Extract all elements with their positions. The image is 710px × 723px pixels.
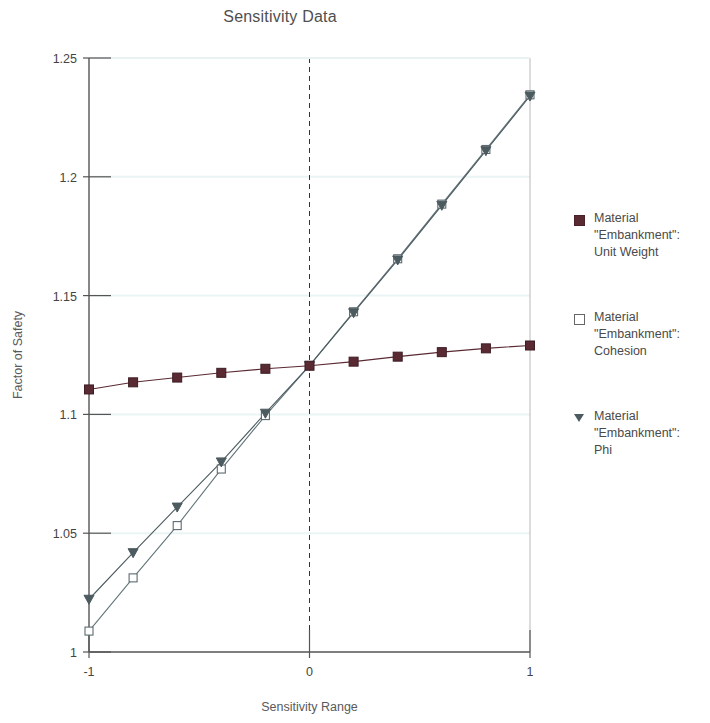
y-axis-title: Factor of Safety bbox=[11, 310, 25, 399]
legend-label-line-3: Cohesion bbox=[594, 343, 710, 360]
legend-entry-unit-weight[interactable]: Material "Embankment": Unit Weight bbox=[572, 210, 710, 261]
data-point-marker bbox=[173, 373, 182, 382]
legend-label-line-2: "Embankment": bbox=[594, 227, 710, 244]
filled-square-icon bbox=[574, 215, 585, 226]
data-point-marker bbox=[173, 522, 181, 530]
legend-label-line-2: "Embankment": bbox=[594, 425, 710, 442]
y-tick-label: 1.1 bbox=[60, 408, 77, 422]
data-point-marker bbox=[84, 595, 94, 604]
data-point-marker bbox=[129, 574, 137, 582]
data-point-marker bbox=[481, 344, 490, 353]
x-tick-label: -1 bbox=[83, 665, 94, 679]
data-point-marker bbox=[305, 361, 314, 370]
legend-label-line-3: Phi bbox=[594, 442, 710, 459]
legend-entry-cohesion[interactable]: Material "Embankment": Cohesion bbox=[572, 309, 710, 360]
x-axis-title: Sensitivity Range bbox=[261, 700, 358, 714]
x-tick-label: 0 bbox=[306, 665, 313, 679]
legend-label-line-3: Unit Weight bbox=[594, 244, 710, 261]
data-point-marker bbox=[261, 364, 270, 373]
legend-label-line-1: Material bbox=[594, 210, 710, 227]
legend-label-line-1: Material bbox=[594, 309, 710, 326]
y-tick-label: 1.15 bbox=[53, 290, 77, 304]
data-point-marker bbox=[85, 385, 94, 394]
open-square-icon bbox=[574, 314, 585, 325]
data-point-marker bbox=[129, 378, 138, 387]
data-point-marker bbox=[85, 627, 93, 635]
data-point-marker bbox=[349, 357, 358, 366]
x-tick-label: 1 bbox=[527, 665, 534, 679]
legend-label-line-2: "Embankment": bbox=[594, 326, 710, 343]
triangle-down-icon bbox=[574, 414, 584, 422]
legend-entry-phi[interactable]: Material "Embankment": Phi bbox=[572, 408, 710, 459]
y-tick-label: 1.05 bbox=[53, 527, 77, 541]
legend-label-line-1: Material bbox=[594, 408, 710, 425]
y-tick-label: 1.2 bbox=[60, 171, 77, 185]
y-tick-label: 1 bbox=[70, 646, 77, 660]
data-point-marker bbox=[437, 348, 446, 357]
chart-legend: Material "Embankment": Unit Weight Mater… bbox=[572, 210, 710, 459]
chart-page: Sensitivity Data 11.051.11.151.21.25-101… bbox=[0, 0, 710, 723]
data-point-marker bbox=[217, 368, 226, 377]
y-tick-label: 1.25 bbox=[53, 52, 77, 66]
data-point-marker bbox=[393, 352, 402, 361]
data-point-marker bbox=[526, 341, 535, 350]
